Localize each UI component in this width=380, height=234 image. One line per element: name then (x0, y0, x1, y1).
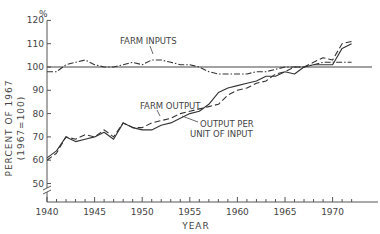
y-axis-title: PERCENT OF 1967 (4, 79, 14, 176)
x-tick-label: 1940 (36, 207, 59, 217)
y-tick-label: 50 (33, 179, 45, 189)
y-tick-label: 110 (27, 39, 44, 49)
x-tick-label: 1945 (83, 207, 106, 217)
x-tick-label: 1965 (274, 207, 297, 217)
x-tick-label: 1955 (178, 207, 201, 217)
line-chart: 5060708090100110120194019451950195519601… (0, 0, 380, 234)
x-tick-label: 1960 (226, 207, 249, 217)
y-axis-subtitle: (1967=100) (16, 96, 26, 161)
output-per-pointer (182, 116, 198, 122)
annotation-unit-of-input: UNIT OF INPUT (190, 129, 253, 139)
y-unit-label: % (39, 9, 48, 19)
axes: 5060708090100110120194019451950195519601… (27, 15, 378, 217)
x-tick-label: 1950 (131, 207, 154, 217)
y-tick-label: 100 (27, 62, 44, 72)
farm-inputs-pointer (150, 46, 153, 54)
x-axis-title: YEAR (181, 221, 210, 231)
annotation-farm-inputs: FARM INPUTS (120, 36, 177, 46)
x-tick-label: 1970 (321, 207, 344, 217)
y-tick-label: 70 (33, 132, 45, 142)
y-tick-label: 80 (33, 109, 45, 119)
annotation-farm-output: FARM OUTPUT (140, 101, 201, 111)
annotation-output-per: OUTPUT PER (200, 119, 254, 129)
y-tick-label: 60 (33, 155, 45, 165)
y-tick-label: 90 (33, 85, 45, 95)
